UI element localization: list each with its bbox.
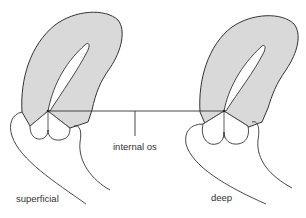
diagram-canvas xyxy=(0,0,306,218)
superficial-label: superficial xyxy=(16,193,59,204)
deep-label: deep xyxy=(211,192,232,203)
uterus-deep xyxy=(186,16,299,204)
vaginal-wall-right-inner xyxy=(252,122,292,188)
uterus-superficial xyxy=(10,12,122,204)
vaginal-wall-left-inner xyxy=(74,126,110,190)
internal-os-label: internal os xyxy=(113,141,157,152)
